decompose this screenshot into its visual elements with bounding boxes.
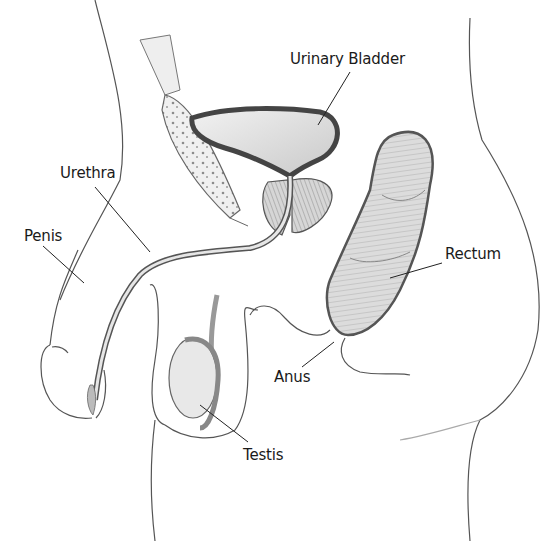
label-rectum: Rectum <box>445 245 501 263</box>
label-anus: Anus <box>274 368 310 386</box>
glans-tip <box>87 385 95 415</box>
label-testis: Testis <box>243 446 283 464</box>
rectum <box>327 132 433 335</box>
label-urinary-bladder: Urinary Bladder <box>290 50 405 68</box>
penis <box>41 250 165 425</box>
prostate <box>263 179 332 235</box>
anatomy-diagram: Urinary Bladder Urethra Penis Rectum Anu… <box>0 0 543 541</box>
body-outline <box>60 0 539 541</box>
label-urethra: Urethra <box>60 164 115 182</box>
label-penis: Penis <box>24 227 62 245</box>
